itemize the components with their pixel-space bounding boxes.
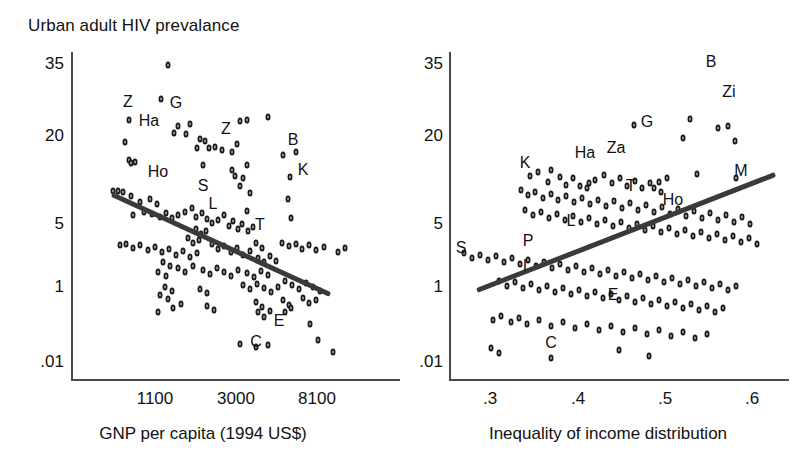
data-point bbox=[259, 268, 264, 275]
data-point bbox=[555, 211, 560, 218]
data-point bbox=[255, 281, 260, 288]
data-point bbox=[684, 213, 689, 220]
data-point bbox=[118, 242, 123, 249]
data-point bbox=[289, 215, 294, 222]
data-point bbox=[595, 221, 600, 228]
data-point bbox=[691, 233, 696, 240]
data-point bbox=[732, 219, 737, 226]
data-point bbox=[489, 345, 494, 352]
data-point bbox=[625, 293, 630, 300]
data-point bbox=[578, 183, 583, 190]
data-point bbox=[186, 235, 191, 242]
data-point bbox=[205, 303, 210, 310]
point-label-k: K bbox=[520, 155, 531, 171]
data-point bbox=[588, 201, 593, 208]
data-point bbox=[526, 192, 531, 199]
data-point bbox=[622, 269, 627, 276]
data-point bbox=[716, 125, 721, 132]
data-point bbox=[657, 179, 662, 186]
data-point bbox=[716, 217, 721, 224]
data-point bbox=[529, 281, 534, 288]
data-point bbox=[528, 173, 533, 180]
data-point bbox=[245, 270, 250, 277]
data-point bbox=[166, 62, 171, 69]
data-point bbox=[287, 243, 292, 250]
data-point bbox=[593, 289, 598, 296]
data-point bbox=[262, 285, 267, 292]
data-point bbox=[188, 121, 193, 128]
data-point bbox=[200, 210, 205, 217]
data-point bbox=[121, 189, 126, 196]
data-point bbox=[726, 123, 731, 130]
point-label-s: S bbox=[198, 178, 209, 194]
data-point bbox=[681, 305, 686, 312]
data-point bbox=[233, 173, 238, 180]
point-label-b: B bbox=[288, 132, 299, 148]
data-point bbox=[579, 219, 584, 226]
data-point bbox=[561, 319, 566, 326]
point-label-e: E bbox=[608, 287, 619, 303]
data-point bbox=[281, 297, 286, 304]
data-point bbox=[138, 242, 143, 249]
data-point bbox=[314, 297, 319, 304]
data-point bbox=[699, 229, 704, 236]
data-point bbox=[256, 309, 261, 316]
data-point bbox=[536, 169, 541, 176]
chart-panel-left: Urban adult HIV prevalance 35 20 5 1 .01… bbox=[0, 0, 403, 466]
scatter-plot-right: BZiGZaHaKMTHoLPISEC bbox=[403, 0, 806, 466]
data-point bbox=[123, 139, 128, 146]
data-point bbox=[707, 235, 712, 242]
data-point bbox=[127, 117, 132, 124]
data-point bbox=[614, 273, 619, 280]
data-point bbox=[587, 180, 592, 187]
data-point bbox=[246, 228, 251, 235]
point-label-c: C bbox=[250, 334, 262, 350]
data-point bbox=[569, 291, 574, 298]
data-point bbox=[606, 267, 611, 274]
data-point bbox=[740, 214, 745, 221]
data-point bbox=[159, 96, 164, 103]
data-point bbox=[509, 319, 514, 326]
chart-panel-right: 35 20 5 1 .01 .3 .4 .5 .6 Inequality of … bbox=[403, 0, 806, 466]
point-label-k: K bbox=[298, 162, 309, 178]
data-point bbox=[300, 246, 305, 253]
data-point bbox=[155, 201, 160, 208]
data-point bbox=[188, 254, 193, 261]
data-point bbox=[587, 215, 592, 222]
data-point bbox=[252, 274, 257, 281]
data-point bbox=[580, 195, 585, 202]
data-point bbox=[721, 305, 726, 312]
point-label-ho: Ho bbox=[663, 192, 683, 208]
point-label-zi: Zi bbox=[722, 84, 735, 100]
data-point bbox=[561, 285, 566, 292]
data-point bbox=[505, 283, 510, 290]
data-point bbox=[657, 297, 662, 304]
data-point bbox=[294, 149, 299, 156]
data-point bbox=[266, 272, 271, 279]
data-point bbox=[167, 246, 172, 253]
data-point bbox=[160, 249, 165, 256]
data-point bbox=[573, 325, 578, 332]
data-point bbox=[619, 219, 624, 226]
data-point bbox=[621, 329, 626, 336]
data-point bbox=[241, 175, 246, 182]
data-point bbox=[678, 281, 683, 288]
data-point bbox=[733, 138, 738, 145]
data-point bbox=[537, 287, 542, 294]
data-point bbox=[497, 350, 502, 357]
data-point bbox=[245, 208, 250, 215]
data-point bbox=[723, 237, 728, 244]
data-point bbox=[695, 171, 700, 178]
data-point bbox=[521, 285, 526, 292]
data-point bbox=[598, 271, 603, 278]
data-point bbox=[290, 282, 295, 289]
data-point bbox=[705, 331, 710, 338]
point-label-g: G bbox=[170, 95, 182, 111]
data-point bbox=[734, 283, 739, 290]
data-point bbox=[675, 231, 680, 238]
data-point bbox=[216, 217, 221, 224]
data-point bbox=[245, 162, 250, 169]
data-point bbox=[231, 218, 236, 225]
data-point bbox=[343, 245, 348, 252]
data-point bbox=[274, 258, 279, 265]
